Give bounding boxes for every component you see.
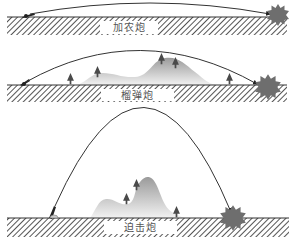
trajectory-flat [30,3,270,14]
tree-icon [123,193,130,204]
tree-icon [226,73,233,84]
panel-howitzer: 榴弹炮 [7,50,287,102]
panel-mortar: 迫击炮 [7,107,289,237]
panel-label-gun: 加农炮 [113,21,146,33]
mortar-icon [49,206,58,219]
panel-label-mortar: 迫击炮 [124,221,157,233]
tree-icon [67,73,74,84]
panel-label-howitzer: 榴弹炮 [121,89,154,101]
artillery-diagram: 加农炮 榴弹炮 迫击炮 [0,0,298,252]
panel-gun: 加农炮 [7,3,289,35]
